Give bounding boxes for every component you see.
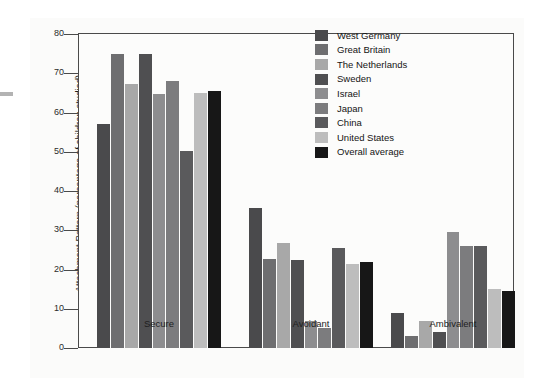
bar [125, 84, 139, 348]
plot-area [79, 34, 513, 348]
bar-set [97, 34, 221, 348]
bar [97, 124, 111, 348]
x-axis-label-ambivalent: Ambivalent [391, 318, 515, 329]
legend-swatch-icon [315, 74, 328, 85]
y-axis-tick-label: 10 [18, 304, 64, 313]
legend-label: Japan [337, 104, 363, 114]
bar [277, 243, 291, 348]
y-axis-labels: 80706050403020100 [8, 0, 64, 392]
legend-label: United States [337, 133, 394, 143]
legend-swatch-icon [315, 103, 328, 114]
y-axis-tick-label: 20 [18, 265, 64, 274]
legend-item[interactable]: Great Britain [315, 43, 407, 58]
bar [111, 54, 125, 348]
legend-item[interactable]: China [315, 116, 407, 131]
legend-item[interactable]: Sweden [315, 72, 407, 87]
bar-set [391, 34, 515, 348]
legend-swatch-icon [315, 44, 328, 55]
legend-label: China [337, 118, 362, 128]
bar [332, 248, 346, 348]
legend-item[interactable]: Overall average [315, 145, 407, 160]
legend-swatch-icon [315, 117, 328, 128]
y-axis-tick [64, 34, 78, 35]
bar [208, 91, 221, 348]
bar [166, 81, 180, 348]
bar-group-secure [97, 34, 221, 348]
y-axis-tick [64, 73, 78, 74]
legend-item[interactable]: Israel [315, 86, 407, 101]
legend-item[interactable]: West Germany [315, 28, 407, 43]
bar [405, 336, 419, 348]
y-axis-tick [64, 348, 78, 349]
legend-item[interactable]: The Netherlands [315, 57, 407, 72]
legend-label: The Netherlands [337, 60, 407, 70]
y-axis-tick [64, 309, 78, 310]
bar [194, 93, 208, 348]
y-axis-tick [64, 230, 78, 231]
bar [291, 260, 305, 348]
bar [263, 259, 277, 348]
bar [153, 94, 167, 348]
chart-screenshot: Attachment Pattern (percentage of childr… [0, 0, 540, 392]
legend-swatch-icon [315, 30, 328, 41]
bar [346, 264, 360, 348]
legend-label: West Germany [337, 31, 400, 41]
y-axis-tick-label: 0 [18, 343, 64, 352]
legend-label: Sweden [337, 74, 371, 84]
bar [460, 246, 474, 348]
x-axis-label-secure: Secure [97, 318, 221, 329]
legend: West GermanyGreat BritainThe Netherlands… [315, 28, 407, 159]
legend-swatch-icon [315, 59, 328, 70]
bar [474, 246, 488, 348]
y-axis-tick-label: 50 [18, 147, 64, 156]
y-axis-tick-label: 40 [18, 186, 64, 195]
y-axis-tick-label: 70 [18, 68, 64, 77]
x-axis-label-avoidant: Avoidant [249, 318, 373, 329]
bar [360, 262, 373, 348]
bar-group-ambivalent [391, 34, 515, 348]
legend-item[interactable]: Japan [315, 101, 407, 116]
bar [447, 232, 461, 348]
y-axis-tick [64, 152, 78, 153]
y-axis-tick-label: 80 [18, 29, 64, 38]
y-axis-tick [64, 270, 78, 271]
y-axis-tick-label: 30 [18, 225, 64, 234]
legend-swatch-icon [315, 88, 328, 99]
y-axis-tick [64, 113, 78, 114]
legend-item[interactable]: United States [315, 130, 407, 145]
y-axis-tick-label: 60 [18, 108, 64, 117]
bar [433, 332, 447, 348]
bar [318, 328, 332, 348]
legend-label: Overall average [337, 147, 404, 157]
legend-label: Israel [337, 89, 360, 99]
bar [139, 54, 153, 348]
legend-swatch-icon [315, 147, 328, 158]
y-axis-tick [64, 191, 78, 192]
legend-label: Great Britain [337, 45, 390, 55]
legend-swatch-icon [315, 132, 328, 143]
